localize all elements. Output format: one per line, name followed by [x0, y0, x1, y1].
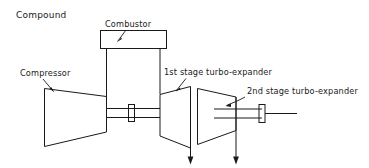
figure-canvas: Compound Combustor Compressor 1st stage …: [0, 0, 369, 168]
compressor-label: Compressor: [20, 68, 71, 78]
compressor-body: [45, 89, 107, 147]
stage1-turbo-expander-body: [160, 87, 191, 149]
stage2-turbo-expander-body: [198, 89, 237, 145]
stage2-turbo-expander-label: 2nd stage turbo-expander: [247, 86, 358, 96]
stage2-exhaust-arrowhead: [233, 157, 239, 165]
figure-title: Compound: [16, 10, 67, 20]
stage1-turbo-expander-label: 1st stage turbo-expander: [164, 67, 273, 77]
shaft-2-coupling: [259, 105, 265, 123]
stage1-exhaust-arrowhead: [188, 157, 194, 165]
combustor-label: Combustor: [105, 19, 152, 29]
combustor-body: [101, 31, 167, 49]
shaft-1-coupling: [129, 105, 135, 122]
combustor-leader-line: [118, 30, 127, 42]
compound-turbine-diagram: Compound Combustor Compressor 1st stage …: [0, 0, 369, 168]
